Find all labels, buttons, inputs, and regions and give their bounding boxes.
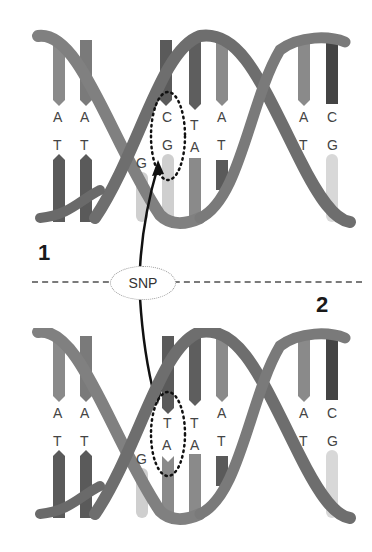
snp-label-badge: SNP [110, 266, 176, 300]
svg-text:T: T [163, 415, 172, 431]
svg-text:A: A [53, 405, 63, 421]
svg-text:A: A [299, 109, 309, 125]
panel-divider [32, 281, 362, 283]
svg-text:T: T [217, 433, 226, 449]
svg-text:G: G [136, 155, 147, 171]
svg-text:G: G [327, 137, 338, 153]
dna-panel-1: A A C T A A C T T G G A T T G 1 [0, 0, 372, 240]
panel-label-1: 1 [38, 240, 50, 266]
svg-text:A: A [53, 109, 63, 125]
svg-text:A: A [217, 109, 227, 125]
svg-text:A: A [217, 405, 227, 421]
svg-text:T: T [80, 433, 89, 449]
svg-text:A: A [162, 437, 172, 453]
svg-text:T: T [299, 433, 308, 449]
svg-text:A: A [190, 437, 200, 453]
svg-text:C: C [327, 405, 337, 421]
svg-text:G: G [327, 433, 338, 449]
svg-text:A: A [190, 139, 200, 155]
svg-text:T: T [299, 137, 308, 153]
svg-text:T: T [190, 117, 199, 133]
svg-text:T: T [80, 137, 89, 153]
svg-text:A: A [299, 405, 309, 421]
svg-text:T: T [190, 415, 199, 431]
dna-helix-2: A A T T A A C T T G A A T T G [0, 328, 372, 552]
svg-text:T: T [53, 433, 62, 449]
dna-helix-1: A A C T A A C T T G G A T T G [0, 0, 372, 240]
dna-panel-2: A A T T A A C T T G A A T T G [0, 328, 372, 552]
svg-text:T: T [53, 137, 62, 153]
panel-label-2: 2 [316, 292, 328, 318]
svg-text:A: A [80, 109, 90, 125]
svg-text:C: C [162, 109, 172, 125]
svg-text:G: G [136, 451, 147, 467]
svg-text:T: T [217, 137, 226, 153]
svg-text:C: C [327, 109, 337, 125]
svg-text:G: G [162, 137, 173, 153]
svg-text:A: A [80, 405, 90, 421]
